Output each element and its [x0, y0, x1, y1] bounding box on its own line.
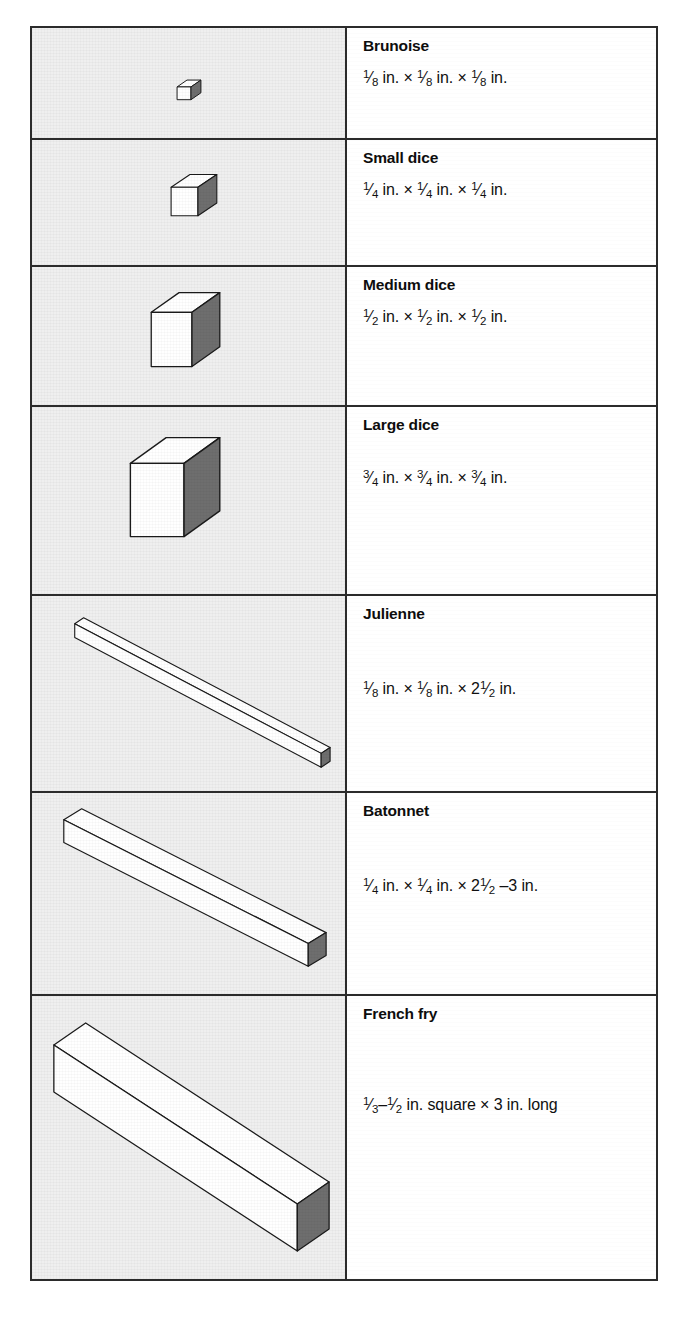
illustration-cell-batonnet [32, 793, 347, 994]
bar-illustration-batonnet [32, 793, 345, 994]
cube-illustration-small-dice [32, 140, 345, 265]
cut-name: French fry [363, 1005, 656, 1023]
cut-name: Julienne [363, 605, 656, 623]
cut-dimensions: 1⁄2 in. × 1⁄2 in. × 1⁄2 in. [363, 307, 656, 326]
text-cell-large-dice: Large dice 3⁄4 in. × 3⁄4 in. × 3⁄4 in. [347, 407, 656, 594]
cut-dimensions: 1⁄4 in. × 1⁄4 in. × 21⁄2 –3 in. [363, 876, 656, 895]
cut-name: Medium dice [363, 276, 656, 294]
text-cell-french-fry: French fry 1⁄3–1⁄2 in. square × 3 in. lo… [347, 996, 656, 1279]
illustration-cell-brunoise [32, 28, 347, 138]
cut-dimensions: 1⁄8 in. × 1⁄8 in. × 21⁄2 in. [363, 679, 656, 698]
cut-name: Brunoise [363, 37, 656, 55]
cut-dimensions: 1⁄4 in. × 1⁄4 in. × 1⁄4 in. [363, 180, 656, 199]
knife-cuts-table: Brunoise 1⁄8 in. × 1⁄8 in. × 1⁄8 in. Sma… [30, 26, 658, 1281]
table-row: Brunoise 1⁄8 in. × 1⁄8 in. × 1⁄8 in. [32, 28, 656, 140]
table-row: French fry 1⁄3–1⁄2 in. square × 3 in. lo… [32, 996, 656, 1279]
cube-illustration-medium-dice [32, 267, 345, 405]
cut-dimensions: 1⁄3–1⁄2 in. square × 3 in. long [363, 1095, 656, 1114]
illustration-cell-medium-dice [32, 267, 347, 405]
text-cell-small-dice: Small dice 1⁄4 in. × 1⁄4 in. × 1⁄4 in. [347, 140, 656, 265]
text-cell-julienne: Julienne 1⁄8 in. × 1⁄8 in. × 21⁄2 in. [347, 596, 656, 791]
illustration-cell-small-dice [32, 140, 347, 265]
illustration-cell-large-dice [32, 407, 347, 594]
text-cell-brunoise: Brunoise 1⁄8 in. × 1⁄8 in. × 1⁄8 in. [347, 28, 656, 138]
bar-illustration-julienne [32, 596, 345, 791]
table-row: Large dice 3⁄4 in. × 3⁄4 in. × 3⁄4 in. [32, 407, 656, 596]
text-cell-batonnet: Batonnet 1⁄4 in. × 1⁄4 in. × 21⁄2 –3 in. [347, 793, 656, 994]
cut-name: Small dice [363, 149, 656, 167]
bar-illustration-french-fry [32, 996, 345, 1279]
table-row: Medium dice 1⁄2 in. × 1⁄2 in. × 1⁄2 in. [32, 267, 656, 407]
table-row: Batonnet 1⁄4 in. × 1⁄4 in. × 21⁄2 –3 in. [32, 793, 656, 996]
cut-dimensions: 1⁄8 in. × 1⁄8 in. × 1⁄8 in. [363, 68, 656, 87]
illustration-cell-french-fry [32, 996, 347, 1279]
cube-illustration-large-dice [32, 407, 345, 594]
cut-name: Large dice [363, 416, 656, 434]
table-row: Julienne 1⁄8 in. × 1⁄8 in. × 21⁄2 in. [32, 596, 656, 793]
table-row: Small dice 1⁄4 in. × 1⁄4 in. × 1⁄4 in. [32, 140, 656, 267]
cut-name: Batonnet [363, 802, 656, 820]
cube-illustration-brunoise [32, 28, 345, 138]
text-cell-medium-dice: Medium dice 1⁄2 in. × 1⁄2 in. × 1⁄2 in. [347, 267, 656, 405]
illustration-cell-julienne [32, 596, 347, 791]
cut-dimensions: 3⁄4 in. × 3⁄4 in. × 3⁄4 in. [363, 468, 656, 487]
